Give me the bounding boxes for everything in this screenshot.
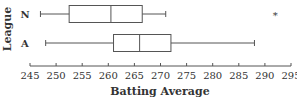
category-label: A xyxy=(20,38,29,49)
x-tick-label: 265 xyxy=(125,70,144,81)
x-tick-label: 285 xyxy=(229,70,248,81)
x-tick-label: 290 xyxy=(255,70,274,81)
box-N: N* xyxy=(20,6,277,23)
box-group: N*A xyxy=(20,6,278,52)
x-tick-label: 250 xyxy=(47,70,66,81)
x-axis-label: Batting Average xyxy=(110,85,209,98)
box-A: A xyxy=(20,35,254,52)
category-label: N xyxy=(20,9,29,20)
iqr-box xyxy=(114,35,171,52)
iqr-box xyxy=(69,6,142,23)
x-tick-label: 260 xyxy=(99,70,118,81)
x-tick-label: 295 xyxy=(281,70,297,81)
x-tick-label: 275 xyxy=(177,70,196,81)
x-tick-label: 255 xyxy=(73,70,92,81)
outlier-marker: * xyxy=(273,10,278,21)
boxplot-chart: N*A 245250255260265270275280285290295 Le… xyxy=(0,0,297,105)
x-tick-label: 270 xyxy=(151,70,170,81)
x-axis: 245250255260265270275280285290295 xyxy=(20,63,297,81)
x-tick-label: 280 xyxy=(203,70,222,81)
x-tick-label: 245 xyxy=(20,70,39,81)
y-axis-label: League xyxy=(1,7,14,52)
